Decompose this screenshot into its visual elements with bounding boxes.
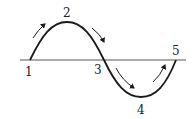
point-label-1: 1: [25, 65, 33, 79]
point-label-5: 5: [172, 44, 180, 58]
arrow-4-to-5: [153, 65, 165, 82]
point-label-4: 4: [137, 103, 145, 117]
point-label-3: 3: [94, 63, 102, 77]
point-label-2: 2: [63, 6, 71, 20]
sine-wave-diagram: 1 2 3 4 5: [0, 0, 196, 119]
